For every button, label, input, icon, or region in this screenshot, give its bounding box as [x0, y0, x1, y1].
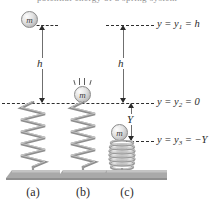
Y-measurement-label: Y	[126, 114, 134, 125]
mass-ball-c-label: m	[116, 128, 123, 138]
label-y1: y = y1 = h	[157, 19, 200, 31]
h-arrow-head-top-c	[120, 25, 126, 30]
h-measurement-label-a: h	[36, 58, 44, 69]
caption-b: (b)	[66, 186, 100, 198]
ground-platform-c	[101, 170, 167, 181]
label-y3-lhs: y = y	[157, 134, 179, 145]
caption-c: (c)	[110, 186, 144, 198]
label-y2-lhs: y = y	[157, 96, 179, 107]
ground-platform-a	[6, 170, 60, 181]
caption-a: (a)	[16, 186, 50, 198]
label-y1-rhs: = h	[182, 18, 200, 29]
mass-ball-c: m	[111, 124, 128, 141]
Y-arrow-head-top	[128, 103, 134, 108]
motion-ticks-b	[72, 76, 94, 85]
dashed-line-y1-left	[32, 25, 58, 26]
clipped-header-text: potential energy of a spring system	[0, 0, 214, 4]
mass-ball-a-label: m	[26, 15, 33, 25]
mass-ball-b-label: m	[79, 90, 86, 100]
h-measurement-label-c: h	[117, 58, 125, 69]
label-y3-rhs: = −Y	[182, 134, 207, 145]
spring-a	[12, 101, 54, 172]
label-y1-lhs: y = y	[157, 18, 179, 29]
h-arrow-head-bottom-c	[120, 98, 126, 103]
h-arrow-head-top-a	[39, 25, 45, 30]
spring-c-compressed	[106, 140, 138, 173]
mass-ball-a: m	[21, 11, 38, 28]
label-y2-rhs: = 0	[182, 96, 200, 107]
dashed-line-y1-right	[106, 25, 154, 26]
spring-b	[62, 101, 106, 172]
label-y3: y = y3 = −Y	[157, 135, 207, 147]
label-y2: y = y2 = 0	[157, 97, 200, 109]
spring-potential-energy-figure: potential energy of a spring system y = …	[0, 0, 214, 207]
